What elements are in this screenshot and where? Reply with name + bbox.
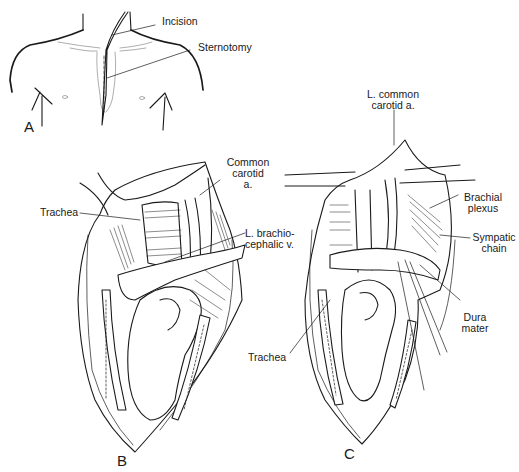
label-line: a. <box>215 179 281 190</box>
panel-c-drawing <box>285 110 475 444</box>
panel-b-drawing <box>78 162 245 452</box>
label-line: chain <box>468 243 519 254</box>
label-sympathetic-chain: Sympatic chain <box>468 232 519 254</box>
panel-a-drawing <box>10 12 203 130</box>
label-line: plexus <box>455 203 511 214</box>
label-sternotomy: Sternotomy <box>198 42 252 53</box>
panel-label-c: C <box>344 445 355 462</box>
label-trachea-c: Trachea <box>248 352 286 363</box>
label-line: carotid a. <box>360 100 426 111</box>
label-trachea-b: Trachea <box>40 207 78 218</box>
label-line: cephalic v. <box>245 239 295 250</box>
label-incision: Incision <box>162 16 198 27</box>
panel-label-a: A <box>24 118 34 135</box>
label-brachiocephalic-v: L. brachio- cephalic v. <box>245 228 295 250</box>
panel-label-b: B <box>117 452 127 469</box>
label-line: mater <box>455 323 495 334</box>
label-brachial-plexus: Brachial plexus <box>455 192 511 214</box>
label-l-common-carotid: L. common carotid a. <box>360 89 426 111</box>
label-common-carotid-b: Common carotid a. <box>215 157 281 190</box>
label-dura-mater: Dura mater <box>455 312 495 334</box>
